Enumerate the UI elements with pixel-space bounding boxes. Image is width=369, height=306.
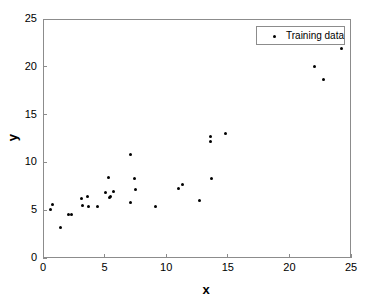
- figure-canvas: 05101520250510152025 Training data x y: [0, 0, 369, 306]
- plot-axes-frame: [43, 19, 351, 258]
- y-axis-label: y: [5, 108, 20, 168]
- y-tick-label: 20: [7, 60, 37, 72]
- y-tick-label: 25: [7, 12, 37, 24]
- x-tick-label: 25: [331, 261, 369, 273]
- y-tick-mark: [43, 114, 47, 115]
- x-tick-label: 5: [85, 261, 125, 273]
- y-tick-mark: [43, 162, 47, 163]
- legend-label: Training data: [286, 30, 344, 41]
- x-tick-mark: [351, 254, 352, 258]
- y-tick-mark: [43, 258, 47, 259]
- x-tick-mark: [289, 254, 290, 258]
- y-tick-label: 5: [7, 203, 37, 215]
- legend-box[interactable]: Training data: [256, 26, 345, 45]
- y-tick-label: 0: [7, 251, 37, 263]
- y-tick-mark: [43, 19, 47, 20]
- x-tick-mark: [166, 254, 167, 258]
- x-tick-label: 10: [146, 261, 186, 273]
- x-tick-mark: [227, 254, 228, 258]
- x-tick-label: 15: [208, 261, 248, 273]
- legend-marker-icon: [273, 35, 276, 38]
- x-tick-mark: [104, 254, 105, 258]
- y-tick-mark: [43, 66, 47, 67]
- x-tick-label: 20: [269, 261, 309, 273]
- x-axis-label: x: [0, 282, 369, 297]
- y-tick-mark: [43, 210, 47, 211]
